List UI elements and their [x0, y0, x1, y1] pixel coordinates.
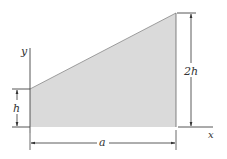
trapezoid-diagram: y x h 2h a: [0, 0, 227, 159]
x-axis-label: x: [208, 129, 214, 140]
shaded-area: [30, 13, 176, 127]
a-dimension-label: a: [99, 136, 106, 149]
2h-dimension-label: 2h: [183, 65, 198, 78]
h-dimension-label: h: [13, 102, 20, 115]
y-axis-label: y: [20, 45, 28, 58]
